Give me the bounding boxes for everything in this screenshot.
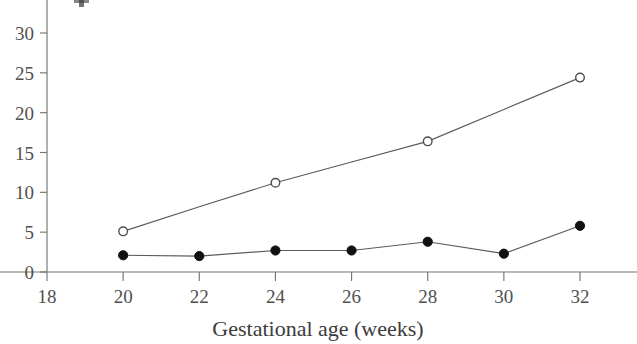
y-axis (40, 0, 47, 272)
y-tick-label: 15 (15, 143, 34, 164)
x-tick-label: 24 (266, 286, 286, 307)
data-point-open (423, 137, 432, 146)
data-point-filled (347, 246, 356, 255)
data-point-filled (575, 221, 584, 230)
series-open-circle-series (119, 73, 584, 235)
data-series-layer (119, 73, 585, 260)
data-point-filled (195, 251, 204, 260)
series-polyline (123, 78, 580, 232)
y-tick-label: 30 (15, 23, 34, 44)
x-tick-label: 30 (494, 286, 513, 307)
x-tick-label: 28 (418, 286, 437, 307)
data-point-open (119, 227, 128, 236)
data-point-filled (119, 251, 128, 260)
x-tick-label: 32 (571, 286, 590, 307)
y-tick-label: 0 (25, 262, 35, 283)
y-tick-label: 10 (15, 182, 34, 203)
x-tick-label-group: 1820222426283032 (38, 286, 590, 307)
data-point-open (576, 73, 585, 82)
y-tick-label-group: 051015202530 (15, 23, 34, 283)
series-filled-circle-series (119, 221, 585, 260)
x-tick-label: 20 (114, 286, 133, 307)
data-point-filled (423, 237, 432, 246)
x-tick-marks (47, 272, 580, 281)
data-point-open (271, 178, 280, 187)
y-tick-label: 25 (15, 63, 34, 84)
y-tick-marks (40, 33, 47, 272)
chart-figure: 051015202530 1820222426283032 Gestationa… (0, 0, 637, 344)
x-tick-label: 26 (342, 286, 361, 307)
line-chart-plot: 051015202530 1820222426283032 Gestationa… (0, 0, 637, 344)
y-tick-label: 20 (15, 103, 34, 124)
y-tick-label: 5 (25, 222, 35, 243)
x-tick-label: 22 (190, 286, 209, 307)
x-axis (0, 272, 637, 281)
data-point-filled (499, 249, 508, 258)
x-axis-title: Gestational age (weeks) (212, 316, 423, 341)
data-point-filled (271, 246, 280, 255)
x-tick-label: 18 (38, 286, 57, 307)
